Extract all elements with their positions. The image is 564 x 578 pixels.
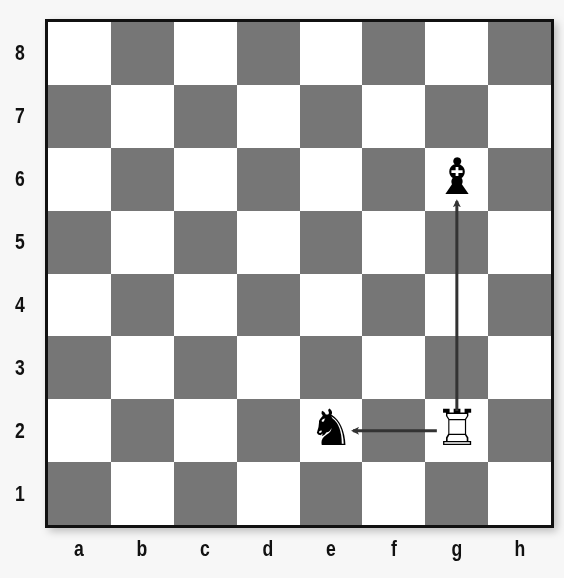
square-e8[interactable]	[300, 22, 363, 85]
square-e5[interactable]	[300, 211, 363, 274]
square-g4[interactable]	[425, 274, 488, 337]
square-c8[interactable]	[174, 22, 237, 85]
square-d3[interactable]	[237, 336, 300, 399]
square-f3[interactable]	[362, 336, 425, 399]
square-h1[interactable]	[488, 462, 551, 525]
rank-label-2: 2	[10, 418, 29, 444]
square-e3[interactable]	[300, 336, 363, 399]
square-g3[interactable]	[425, 336, 488, 399]
square-e1[interactable]	[300, 462, 363, 525]
square-d2[interactable]	[237, 399, 300, 462]
square-h2[interactable]	[488, 399, 551, 462]
square-d5[interactable]	[237, 211, 300, 274]
square-e6[interactable]	[300, 148, 363, 211]
square-f8[interactable]	[362, 22, 425, 85]
square-e7[interactable]	[300, 85, 363, 148]
square-d8[interactable]	[237, 22, 300, 85]
square-f6[interactable]	[362, 148, 425, 211]
file-label-e: e	[319, 536, 343, 562]
square-d4[interactable]	[237, 274, 300, 337]
square-c2[interactable]	[174, 399, 237, 462]
square-b2[interactable]	[111, 399, 174, 462]
square-c7[interactable]	[174, 85, 237, 148]
square-e4[interactable]	[300, 274, 363, 337]
square-d1[interactable]	[237, 462, 300, 525]
square-f7[interactable]	[362, 85, 425, 148]
white-rook-icon[interactable]: ♖	[425, 397, 488, 460]
square-h4[interactable]	[488, 274, 551, 337]
square-g7[interactable]	[425, 85, 488, 148]
square-a4[interactable]	[48, 274, 111, 337]
file-label-b: b	[130, 536, 154, 562]
square-a8[interactable]	[48, 22, 111, 85]
rank-label-5: 5	[10, 229, 29, 255]
file-label-g: g	[445, 536, 469, 562]
square-a2[interactable]	[48, 399, 111, 462]
square-b1[interactable]	[111, 462, 174, 525]
square-f2[interactable]	[362, 399, 425, 462]
square-h5[interactable]	[488, 211, 551, 274]
square-h3[interactable]	[488, 336, 551, 399]
square-a5[interactable]	[48, 211, 111, 274]
rank-label-7: 7	[10, 103, 29, 129]
file-label-d: d	[256, 536, 280, 562]
square-f1[interactable]	[362, 462, 425, 525]
square-b7[interactable]	[111, 85, 174, 148]
square-d7[interactable]	[237, 85, 300, 148]
square-g5[interactable]	[425, 211, 488, 274]
square-h8[interactable]	[488, 22, 551, 85]
square-c5[interactable]	[174, 211, 237, 274]
rank-label-6: 6	[10, 166, 29, 192]
black-knight-icon[interactable]: ♞	[300, 397, 363, 460]
square-b5[interactable]	[111, 211, 174, 274]
square-a3[interactable]	[48, 336, 111, 399]
square-f5[interactable]	[362, 211, 425, 274]
square-c3[interactable]	[174, 336, 237, 399]
square-g8[interactable]	[425, 22, 488, 85]
file-label-c: c	[193, 536, 217, 562]
square-f4[interactable]	[362, 274, 425, 337]
square-a7[interactable]	[48, 85, 111, 148]
square-g1[interactable]	[425, 462, 488, 525]
square-c1[interactable]	[174, 462, 237, 525]
square-b4[interactable]	[111, 274, 174, 337]
rank-label-4: 4	[10, 292, 29, 318]
square-c4[interactable]	[174, 274, 237, 337]
rank-label-1: 1	[10, 481, 29, 507]
file-label-a: a	[67, 536, 91, 562]
square-a1[interactable]	[48, 462, 111, 525]
rank-label-3: 3	[10, 355, 29, 381]
square-a6[interactable]	[48, 148, 111, 211]
file-label-h: h	[508, 536, 532, 562]
square-h7[interactable]	[488, 85, 551, 148]
square-d6[interactable]	[237, 148, 300, 211]
square-b3[interactable]	[111, 336, 174, 399]
square-c6[interactable]	[174, 148, 237, 211]
square-b6[interactable]	[111, 148, 174, 211]
file-label-f: f	[382, 536, 406, 562]
black-bishop-icon[interactable]: ♝	[425, 146, 488, 209]
rank-label-8: 8	[10, 40, 29, 66]
square-h6[interactable]	[488, 148, 551, 211]
square-b8[interactable]	[111, 22, 174, 85]
